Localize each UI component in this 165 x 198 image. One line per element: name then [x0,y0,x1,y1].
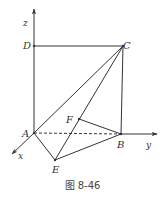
point-label-a: A [21,128,29,139]
geometry-figure: z x y D C A B E F [0,0,165,198]
point-label-d: D [22,40,31,51]
x-axis-label: x [18,151,23,161]
figure-caption: 图 8-46 [0,177,165,192]
figure-labels: z x y D C A B E F [18,18,152,175]
point-label-f: F [65,114,74,125]
figure-edges [34,46,123,160]
point-label-c: C [123,40,131,51]
vertex-d [33,45,35,47]
edge-fb [79,119,121,134]
edge-ae [34,133,55,160]
point-label-e: E [51,164,60,175]
y-axis-label: y [145,140,152,150]
figure-vertices [33,45,124,161]
vertex-b [120,133,122,135]
edge-eb [55,134,121,160]
edge-ab [34,133,121,134]
vertex-e [54,159,56,161]
point-label-b: B [116,139,124,150]
z-axis-label: z [22,18,28,28]
vertex-a [33,132,35,134]
vertex-f [78,118,80,120]
edge-cb [121,46,123,134]
